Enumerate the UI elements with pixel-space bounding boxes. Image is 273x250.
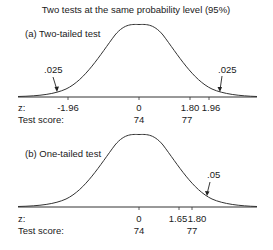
normal-curve-a: [18, 24, 257, 96]
z-tick-a: 1.80: [181, 103, 200, 113]
z-tick-b: 1.65: [169, 214, 188, 224]
score-row-label-b: Test score:: [18, 226, 64, 236]
z-tick-a: 0: [136, 103, 141, 113]
score-b: 74: [134, 226, 145, 236]
z-row-label-b: z:: [18, 214, 25, 224]
score-b: 77: [187, 226, 198, 236]
area-label-left: .025: [44, 65, 63, 75]
z-tick-b: 0: [136, 214, 141, 224]
normal-curve-b: [18, 134, 257, 206]
score-row-label-a: Test score:: [18, 115, 64, 125]
score-a: 74: [134, 115, 145, 125]
panel-b-label: (b) One-tailed test: [25, 149, 101, 159]
area-label-right: .025: [218, 65, 237, 75]
z-row-label-a: z:: [18, 103, 25, 113]
area-label-b: .05: [207, 170, 220, 180]
score-a: 77: [182, 115, 193, 125]
z-tick-b: 1.80: [188, 214, 207, 224]
z-tick-a: 1.96: [202, 103, 221, 113]
z-tick-a: -1.96: [57, 103, 79, 113]
